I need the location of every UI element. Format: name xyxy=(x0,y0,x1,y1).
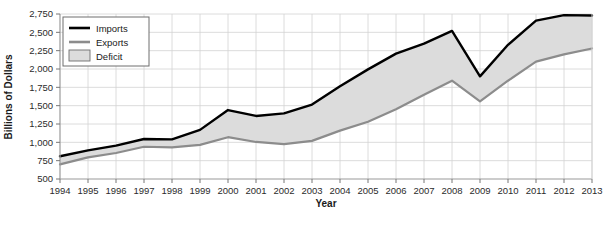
x-tick-label: 2008 xyxy=(441,185,462,196)
y-tick-label: 2,000 xyxy=(29,63,53,74)
x-tick-label: 2000 xyxy=(217,185,238,196)
x-tick-label: 2011 xyxy=(526,185,546,196)
x-tick-label: 2013 xyxy=(581,185,602,196)
y-axis-tick-labels: 5007501,0001,2501,5001,7502,0002,2502,50… xyxy=(29,8,53,184)
y-tick-label: 1,750 xyxy=(29,82,53,93)
x-tick-label: 2010 xyxy=(497,185,518,196)
x-tick-label: 2009 xyxy=(469,185,490,196)
trade-imports-exports-chart: 5007501,0001,2501,5001,7502,0002,2502,50… xyxy=(0,0,612,227)
x-tick-label: 2001 xyxy=(245,185,266,196)
y-tick-label: 1,250 xyxy=(29,118,53,129)
legend-imports-label: Imports xyxy=(96,23,128,34)
y-tick-label: 2,500 xyxy=(29,27,53,38)
x-axis-tick-labels: 1994199519961997199819992000200120022003… xyxy=(49,185,602,196)
x-tick-label: 2012 xyxy=(553,185,574,196)
x-axis-ticks xyxy=(60,179,592,183)
legend-exports-label: Exports xyxy=(96,37,128,48)
x-tick-label: 1997 xyxy=(133,185,154,196)
x-tick-label: 2005 xyxy=(357,185,378,196)
legend-deficit-label: Deficit xyxy=(96,51,123,62)
y-axis-title: Billions of Dollars xyxy=(3,54,14,139)
chart-legend: Imports Exports Deficit xyxy=(63,17,149,66)
y-tick-label: 2,750 xyxy=(29,8,53,19)
x-tick-label: 1994 xyxy=(49,185,70,196)
y-tick-label: 2,250 xyxy=(29,45,53,56)
y-tick-label: 500 xyxy=(37,173,53,184)
x-tick-label: 1995 xyxy=(77,185,98,196)
x-tick-label: 1996 xyxy=(105,185,126,196)
x-tick-label: 1999 xyxy=(189,185,210,196)
x-tick-label: 2004 xyxy=(329,185,350,196)
x-tick-label: 1998 xyxy=(161,185,182,196)
x-tick-label: 2002 xyxy=(273,185,294,196)
figure-container: 5007501,0001,2501,5001,7502,0002,2502,50… xyxy=(0,0,612,227)
legend-deficit-swatch-icon xyxy=(69,50,90,61)
y-tick-label: 750 xyxy=(37,155,53,166)
x-tick-label: 2006 xyxy=(385,185,406,196)
x-tick-label: 2003 xyxy=(301,185,322,196)
x-tick-label: 2007 xyxy=(413,185,434,196)
x-axis-title: Year xyxy=(315,198,336,209)
y-tick-label: 1,500 xyxy=(29,100,53,111)
y-tick-label: 1,000 xyxy=(29,137,53,148)
